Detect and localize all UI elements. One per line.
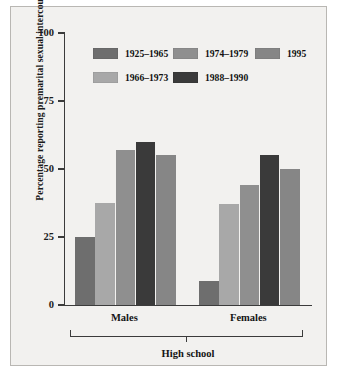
x-axis-line	[64, 305, 312, 306]
bar-females-1966-1973	[219, 204, 239, 305]
y-tick-label-50: 50	[14, 164, 54, 175]
group-label-males: Males	[84, 312, 164, 323]
group-label-females: Females	[208, 312, 288, 323]
bar-males-1925-1965	[75, 237, 95, 305]
bar-females-1988-1990	[260, 155, 280, 305]
y-tick-label-0: 0	[14, 300, 54, 311]
y-axis-labels: 0255075100	[6, 0, 54, 374]
y-tick-label-100: 100	[14, 28, 54, 39]
y-tick-label-25: 25	[14, 232, 54, 243]
bar-males-1988-1990	[136, 142, 156, 305]
bar-males-1974-1979	[116, 150, 136, 305]
bar-chart-figure: 1925–1965 1974–1979 1995 1966–1973	[0, 0, 337, 374]
bar-females-1995	[280, 169, 300, 305]
group-bracket-tick	[186, 337, 187, 342]
group-bracket-high-school	[70, 330, 303, 337]
y-tick-label-75: 75	[14, 96, 54, 107]
bar-males-1995	[156, 155, 176, 305]
outer-group-label: High school	[64, 348, 312, 359]
bar-females-1974-1979	[240, 185, 260, 305]
bar-females-1925-1965	[199, 281, 219, 305]
bar-males-1966-1973	[95, 203, 115, 305]
plot-area	[64, 33, 312, 305]
